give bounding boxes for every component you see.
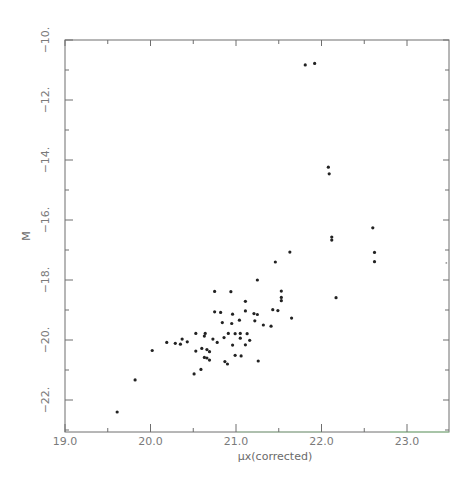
data-point [219,311,222,314]
x-axis-ticks: 19.020.021.022.023.0 [53,40,420,448]
data-point [262,323,265,326]
data-point [280,296,283,299]
data-point [134,378,137,381]
data-point [216,341,219,344]
data-point [213,310,216,313]
data-point [271,308,274,311]
data-point [200,347,203,350]
data-point [240,354,243,357]
data-point [223,360,226,363]
plot-border [65,40,449,432]
data-point [208,350,211,353]
data-point [252,312,255,315]
data-point [211,338,214,341]
data-point [186,340,189,343]
data-point [280,290,283,293]
data-point [244,343,247,346]
data-point [330,239,333,242]
data-point [231,344,234,347]
data-point [165,341,168,344]
data-point [203,335,206,338]
data-point [194,350,197,353]
data-point [371,226,374,229]
data-point [244,300,247,303]
y-axis-title: M [20,231,33,241]
data-point [327,166,330,169]
data-points [116,62,448,414]
x-tick-label: 22.0 [309,435,334,448]
data-point [205,348,208,351]
x-tick-label: 21.0 [224,435,249,448]
data-point [116,410,119,413]
data-point [246,332,249,335]
data-point [274,260,277,263]
data-point [290,317,293,320]
data-point [269,325,272,328]
data-point [328,172,331,175]
x-tick-label: 20.0 [138,435,163,448]
y-axis-ticks: −10.−12.−14.−16.−18.−20.−22. [39,27,449,430]
data-point [288,251,291,254]
data-point [256,278,259,281]
data-point [151,349,154,352]
data-point [205,356,208,359]
data-point [234,354,237,357]
data-point [234,332,237,335]
data-point [244,309,247,312]
data-point [193,372,196,375]
data-point [313,62,316,65]
data-point [276,309,279,312]
data-point [204,332,207,335]
y-tick-label: −12. [39,87,52,114]
y-tick-label: −10. [39,27,52,54]
data-point [229,290,232,293]
data-point [238,319,241,322]
data-point [280,299,283,302]
data-point [257,359,260,362]
x-tick-label: 19.0 [53,435,78,448]
data-point [304,63,307,66]
data-point [256,313,259,316]
data-point [179,343,182,346]
data-point [221,321,224,324]
data-point [227,332,230,335]
data-point [194,332,197,335]
scatter-chart: −10.−12.−14.−16.−18.−20.−22. 19.020.021.… [0,0,472,494]
x-axis-title: μx(corrected) [238,450,312,463]
data-point [248,339,251,342]
y-tick-label: −22. [39,387,52,414]
y-tick-label: −16. [39,207,52,234]
y-tick-label: −14. [39,147,52,174]
data-point [239,337,242,340]
data-point [208,359,211,362]
data-point [334,296,337,299]
data-point [199,368,202,371]
data-point [330,236,333,239]
y-tick-label: −20. [39,327,52,354]
plot-frame [65,40,449,432]
data-point [373,251,376,254]
data-point [373,260,376,263]
data-point [230,322,233,325]
data-point [174,342,177,345]
data-point [222,336,225,339]
data-point [213,290,216,293]
data-point [231,313,234,316]
y-tick-label: −18. [39,267,52,294]
data-point [445,262,447,264]
data-point [239,332,242,335]
data-point [181,338,184,341]
data-point [253,319,256,322]
x-tick-label: 23.0 [395,435,420,448]
data-point [226,362,229,365]
